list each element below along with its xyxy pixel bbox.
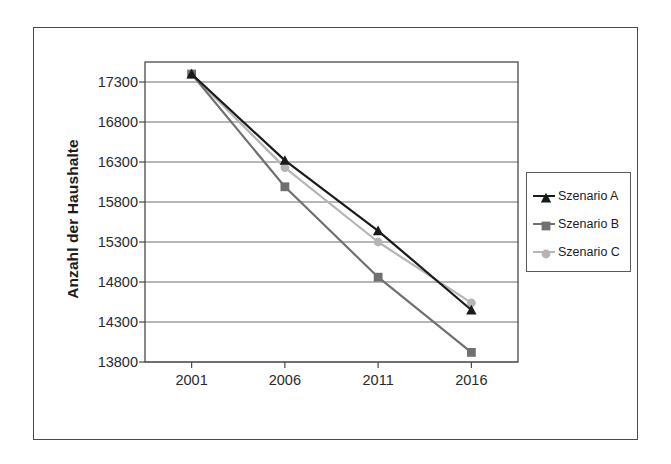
legend-label: Szenario B bbox=[558, 217, 619, 231]
series-szenario-a bbox=[186, 69, 476, 315]
legend-marker-triangle-icon bbox=[533, 190, 555, 202]
legend-item-szenario-c[interactable]: Szenario C bbox=[533, 238, 630, 266]
chart-legend: Szenario ASzenario BSzenario C bbox=[526, 172, 631, 272]
series-szenario-c bbox=[187, 70, 476, 308]
data-point-2006 bbox=[280, 182, 289, 191]
legend-marker-square-icon bbox=[533, 218, 555, 230]
legend-label: Szenario C bbox=[558, 245, 620, 259]
data-point-2016 bbox=[467, 348, 476, 357]
legend-marker-glyph bbox=[542, 222, 551, 231]
legend-marker-glyph bbox=[542, 250, 551, 259]
legend-item-szenario-a[interactable]: Szenario A bbox=[533, 182, 630, 210]
legend-label: Szenario A bbox=[558, 189, 618, 203]
data-point-2011 bbox=[374, 238, 383, 247]
legend-item-szenario-b[interactable]: Szenario B bbox=[533, 210, 630, 238]
plot-border bbox=[145, 62, 518, 362]
series-line bbox=[192, 74, 472, 303]
data-point-2011 bbox=[374, 273, 383, 282]
line-chart: Anzahl der Haushalte 1380014300148001530… bbox=[0, 0, 671, 464]
legend-marker-glyph bbox=[541, 193, 551, 203]
legend-marker-circle-icon bbox=[533, 246, 555, 258]
series-line bbox=[192, 74, 472, 310]
